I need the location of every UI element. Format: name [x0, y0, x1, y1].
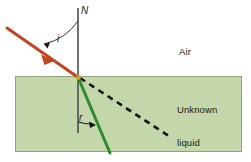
angle-of-incidence-arc [44, 21, 78, 44]
unknown-liquid-label-line1: Unknown [177, 104, 217, 115]
angle-of-refraction-label: r [79, 112, 82, 123]
refraction-diagram: N i r Air Unknown liquid [0, 0, 251, 162]
angle-of-incidence-label: i [57, 33, 59, 44]
incident-ray [7, 28, 79, 78]
incidence-point [76, 75, 81, 80]
air-label: Air [179, 46, 191, 57]
unknown-liquid-label: Unknown liquid [177, 82, 217, 162]
unknown-liquid-label-line2: liquid [177, 137, 217, 148]
normal-label: N [81, 5, 88, 16]
